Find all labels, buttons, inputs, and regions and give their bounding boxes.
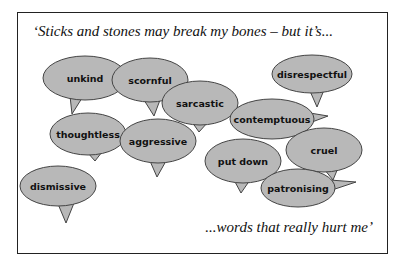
- speech-bubble-disrespectful: disrespectful: [272, 55, 352, 107]
- speech-bubble-dismissive: dismissive: [20, 166, 96, 223]
- bubble-label: cruel: [311, 145, 338, 156]
- bubble-label: sarcastic: [176, 98, 224, 109]
- bubble-label: unkind: [67, 73, 104, 84]
- bubble-label: aggressive: [129, 136, 187, 147]
- speech-bubble-aggressive: aggressive: [120, 119, 196, 177]
- bubble-label: dismissive: [30, 181, 86, 192]
- speech-bubble-patronising: patronising: [261, 169, 356, 207]
- bubble-label: thoughtless: [56, 129, 120, 140]
- bubble-label: put down: [218, 156, 269, 167]
- bubble-label: patronising: [267, 183, 328, 194]
- bubble-label: scornful: [128, 75, 171, 86]
- bubble-label: disrespectful: [277, 69, 347, 80]
- bubble-label: contemptuous: [234, 114, 311, 125]
- quote-bottom-text: ...words that really hurt me’: [205, 219, 373, 236]
- speech-bubble-thoughtless: thoughtless: [50, 113, 126, 161]
